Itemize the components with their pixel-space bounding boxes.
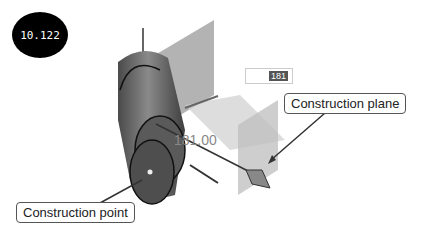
construction-point[interactable] [148, 170, 153, 175]
construction-plane-callout: Construction plane [284, 93, 406, 114]
dimension-input-value[interactable]: 181 [269, 71, 288, 81]
figure-badge: 10.122 [12, 12, 68, 58]
axis-line [190, 165, 218, 183]
construction-point-callout: Construction point [16, 202, 135, 223]
dimension-input[interactable]: 181 [245, 68, 293, 84]
dimension-label: 181.00 [174, 132, 217, 148]
